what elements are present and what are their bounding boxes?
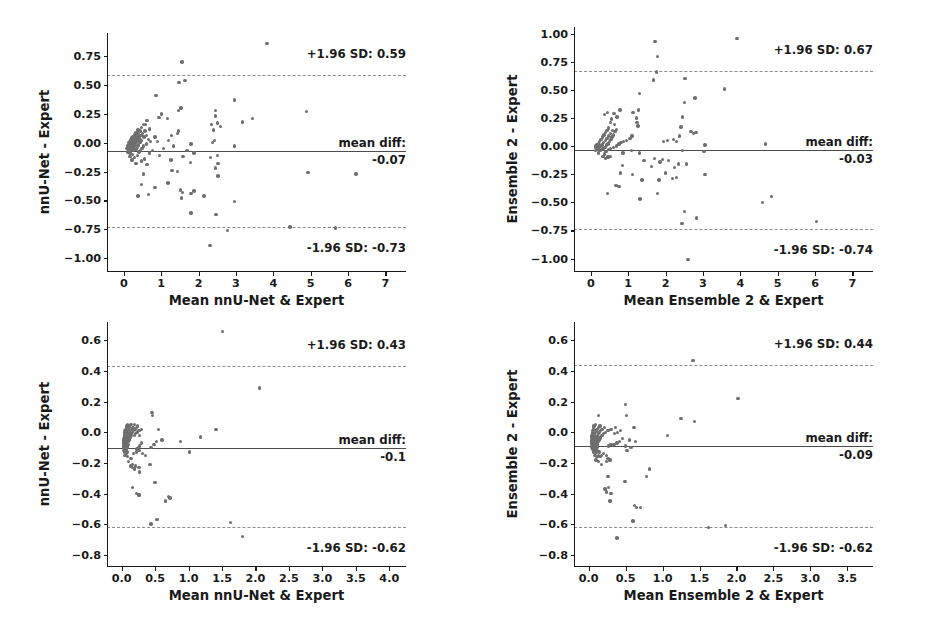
- scatter-point: [702, 150, 705, 153]
- scatter-point: [134, 162, 137, 165]
- scatter-point: [130, 428, 133, 431]
- scatter-point: [592, 441, 595, 444]
- scatter-point: [136, 154, 139, 157]
- scatter-point: [139, 129, 142, 132]
- x-tick-label: 2.0: [726, 572, 746, 585]
- scatter-point: [148, 463, 151, 466]
- scatter-point: [606, 155, 609, 158]
- scatter-point: [597, 432, 600, 435]
- scatter-point: [592, 446, 595, 449]
- scatter-point: [613, 432, 616, 435]
- scatter-point: [605, 129, 608, 132]
- scatter-point: [693, 420, 696, 423]
- scatter-point: [606, 111, 609, 114]
- scatter-point: [678, 134, 681, 137]
- scatter-point: [126, 437, 129, 440]
- panel-bottom-right-y-axis-spine: [574, 322, 575, 567]
- scatter-point: [135, 447, 138, 450]
- scatter-point: [610, 135, 613, 138]
- scatter-point: [596, 449, 599, 452]
- x-tick-mark: [124, 272, 125, 276]
- scatter-point: [606, 156, 609, 159]
- scatter-point: [595, 455, 598, 458]
- scatter-point: [142, 135, 145, 138]
- scatter-point: [214, 114, 217, 117]
- scatter-point: [241, 120, 244, 123]
- y-tick-mark: [571, 463, 575, 464]
- panel-top-left-lower-loa-line: [107, 227, 406, 228]
- scatter-point: [127, 438, 130, 441]
- scatter-point: [675, 176, 678, 179]
- scatter-point: [122, 449, 125, 452]
- scatter-point: [202, 194, 205, 197]
- scatter-point: [592, 449, 595, 452]
- y-tick-mark: [104, 200, 108, 201]
- scatter-point: [183, 79, 186, 82]
- scatter-point: [306, 171, 309, 174]
- y-tick-mark: [104, 56, 108, 57]
- y-tick-label: 0.6: [81, 334, 101, 347]
- panel-top-right-y-axis-label: Ensemble 2 - Expert: [505, 75, 520, 224]
- scatter-point: [135, 141, 138, 144]
- panel-bottom-right-mean-diff-label: mean diff:: [805, 431, 873, 445]
- y-tick-label: −0.25: [531, 168, 568, 181]
- scatter-point: [590, 435, 593, 438]
- scatter-point: [764, 142, 767, 145]
- scatter-point: [145, 142, 148, 145]
- scatter-point: [621, 437, 624, 440]
- scatter-point: [138, 434, 141, 437]
- scatter-point: [125, 438, 128, 441]
- scatter-point: [134, 432, 137, 435]
- y-tick-mark: [571, 230, 575, 231]
- scatter-point: [677, 162, 680, 165]
- scatter-point: [597, 146, 600, 149]
- scatter-point: [595, 446, 598, 449]
- scatter-point: [613, 130, 616, 133]
- scatter-point: [209, 156, 212, 159]
- y-tick-mark: [104, 494, 108, 495]
- scatter-point: [153, 481, 156, 484]
- y-tick-label: 0.0: [81, 426, 101, 439]
- scatter-point: [213, 139, 216, 142]
- x-tick-label: 1: [624, 277, 632, 290]
- scatter-point: [770, 195, 773, 198]
- scatter-point: [594, 438, 597, 441]
- scatter-point: [612, 146, 615, 149]
- scatter-point: [132, 147, 135, 150]
- scatter-point: [603, 146, 606, 149]
- scatter-point: [126, 429, 129, 432]
- x-tick-label: 7: [382, 277, 390, 290]
- y-tick-mark: [571, 118, 575, 119]
- bland-altman-figure: 0.750.500.250.00−0.25−0.50−0.75−1.000123…: [0, 0, 936, 634]
- scatter-point: [288, 225, 291, 228]
- scatter-point: [354, 172, 357, 175]
- scatter-point: [169, 158, 172, 161]
- scatter-point: [226, 229, 229, 232]
- scatter-point: [334, 226, 337, 229]
- panel-top-right-upper-loa-annotation: +1.96 SD: 0.67: [774, 43, 873, 57]
- scatter-point: [305, 110, 308, 113]
- scatter-point: [621, 151, 624, 154]
- scatter-point: [137, 446, 140, 449]
- scatter-point: [138, 141, 141, 144]
- scatter-point: [615, 128, 618, 131]
- scatter-point: [592, 435, 595, 438]
- scatter-point: [638, 197, 641, 200]
- scatter-point: [124, 440, 127, 443]
- scatter-point: [595, 428, 598, 431]
- scatter-point: [123, 429, 126, 432]
- x-tick-mark: [273, 272, 274, 276]
- scatter-point: [143, 129, 146, 132]
- scatter-point: [667, 159, 670, 162]
- scatter-point: [642, 159, 645, 162]
- scatter-point: [599, 144, 602, 147]
- scatter-point: [603, 152, 606, 155]
- scatter-point: [216, 154, 219, 157]
- y-tick-label: 0.0: [548, 426, 568, 439]
- scatter-point: [128, 424, 131, 427]
- panel-top-left-mean-diff-line: [107, 151, 406, 152]
- scatter-point: [128, 146, 131, 149]
- panel-top-left-x-axis-spine: [107, 271, 406, 272]
- scatter-point: [600, 148, 603, 151]
- scatter-point: [132, 141, 135, 144]
